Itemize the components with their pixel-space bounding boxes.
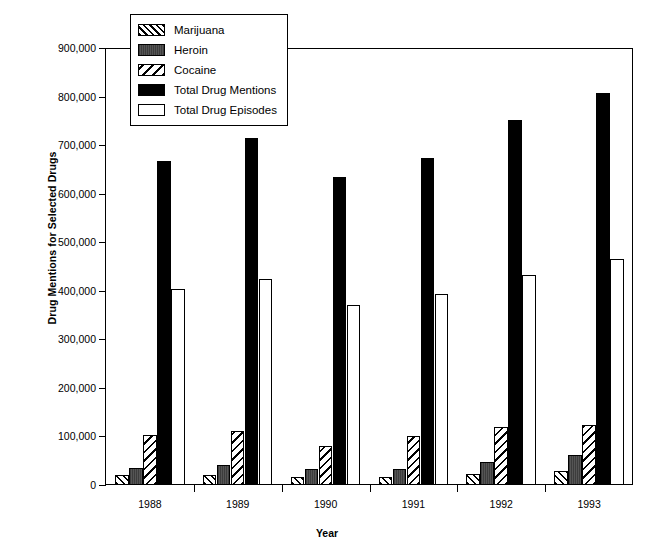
legend-swatch-icon (138, 104, 165, 116)
y-tick-label: 100,000 (8, 431, 96, 441)
legend-label: Heroin (174, 44, 208, 56)
bar-total-drug-episodes-1993 (610, 259, 624, 485)
legend-item: Cocaine (138, 60, 277, 80)
legend-swatch-icon (138, 84, 165, 96)
x-tick-label: 1989 (226, 498, 249, 510)
bar-marijuana-1993 (554, 471, 568, 485)
legend-item: Marijuana (138, 20, 277, 40)
y-axis-ticklabels: 0100,000200,000300,000400,000500,000600,… (8, 0, 96, 560)
x-axis-title: Year (0, 527, 654, 539)
bar-marijuana-1992 (466, 474, 480, 485)
bar-total-drug-mentions-1988 (157, 161, 171, 485)
bar-total-drug-mentions-1990 (333, 177, 347, 485)
bar-cocaine-1991 (407, 436, 421, 485)
bar-marijuana-1990 (291, 477, 305, 485)
y-tick-mark (99, 436, 106, 437)
x-tick-label: 1993 (577, 498, 600, 510)
legend-label: Total Drug Episodes (174, 104, 277, 116)
y-tick-mark (99, 242, 106, 243)
x-tick-mark (545, 485, 546, 492)
y-tick-label: 200,000 (8, 383, 96, 393)
legend-label: Total Drug Mentions (174, 84, 276, 96)
legend-item: Total Drug Mentions (138, 80, 277, 100)
bar-marijuana-1988 (115, 475, 129, 485)
legend-item: Heroin (138, 40, 277, 60)
x-tick-mark (457, 485, 458, 492)
y-tick-label: 400,000 (8, 286, 96, 296)
y-tick-label: 600,000 (8, 189, 96, 199)
legend-swatch-icon (138, 24, 165, 36)
y-tick-mark (99, 48, 106, 49)
bar-total-drug-episodes-1992 (522, 275, 536, 485)
bar-marijuana-1989 (203, 475, 217, 485)
legend-label: Cocaine (174, 64, 216, 76)
bar-group (457, 48, 545, 485)
x-tick-label: 1992 (490, 498, 513, 510)
y-tick-mark (99, 485, 106, 486)
bar-heroin-1992 (480, 462, 494, 485)
legend-swatch-icon (138, 64, 165, 76)
x-tick-label: 1990 (314, 498, 337, 510)
y-tick-label: 700,000 (8, 140, 96, 150)
bar-total-drug-episodes-1988 (171, 289, 185, 485)
bar-total-drug-mentions-1991 (421, 158, 435, 485)
bar-cocaine-1993 (582, 425, 596, 485)
y-tick-mark (99, 388, 106, 389)
y-tick-label: 800,000 (8, 92, 96, 102)
bar-heroin-1990 (305, 469, 319, 485)
bar-heroin-1991 (393, 469, 407, 486)
bar-marijuana-1991 (379, 477, 393, 485)
y-tick-mark (99, 145, 106, 146)
y-tick-mark (99, 291, 106, 292)
legend-swatch-icon (138, 44, 165, 56)
y-tick-label: 0 (8, 480, 96, 490)
y-tick-label: 500,000 (8, 237, 96, 247)
bar-heroin-1993 (568, 455, 582, 485)
legend-label: Marijuana (174, 24, 225, 36)
bar-total-drug-mentions-1992 (508, 120, 522, 485)
bar-cocaine-1992 (494, 427, 508, 485)
x-tick-mark (282, 485, 283, 492)
bar-heroin-1988 (129, 468, 143, 485)
bar-total-drug-episodes-1991 (435, 294, 449, 485)
bar-cocaine-1990 (319, 446, 333, 485)
bar-total-drug-mentions-1989 (245, 138, 259, 485)
legend-item: Total Drug Episodes (138, 100, 277, 120)
bar-chart: Drug Mentions for Selected Drugs 0100,00… (0, 0, 654, 560)
bar-group (282, 48, 370, 485)
y-tick-label: 300,000 (8, 334, 96, 344)
bar-total-drug-episodes-1989 (259, 279, 273, 485)
y-tick-mark (99, 339, 106, 340)
chart-legend: MarijuanaHeroinCocaineTotal Drug Mention… (130, 14, 288, 126)
y-tick-mark (99, 194, 106, 195)
y-tick-mark (99, 97, 106, 98)
bar-cocaine-1988 (143, 435, 157, 485)
bar-total-drug-episodes-1990 (347, 305, 361, 485)
x-tick-label: 1988 (138, 498, 161, 510)
x-tick-mark (370, 485, 371, 492)
bar-group (370, 48, 458, 485)
x-tick-mark (194, 485, 195, 492)
bar-heroin-1989 (217, 465, 231, 485)
bar-group (545, 48, 633, 485)
y-tick-label: 900,000 (8, 43, 96, 53)
x-tick-label: 1991 (402, 498, 425, 510)
bar-cocaine-1989 (231, 431, 245, 485)
bar-total-drug-mentions-1993 (596, 93, 610, 485)
